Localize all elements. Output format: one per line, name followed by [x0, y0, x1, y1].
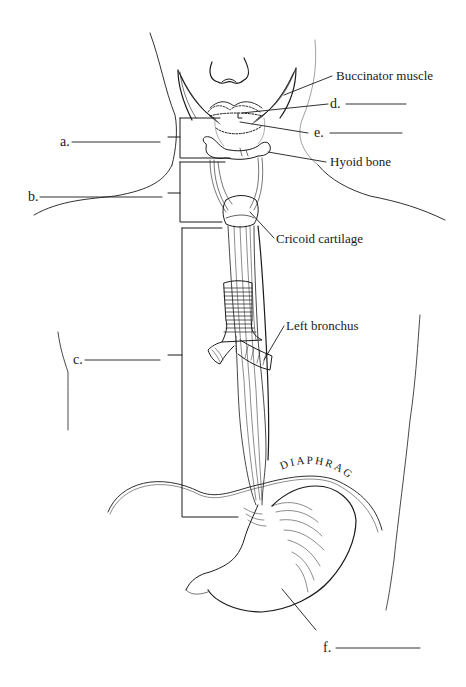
left-torso — [58, 332, 68, 430]
right-bronchus — [208, 342, 234, 364]
label-blank-a: a. — [60, 135, 70, 149]
bracket-b — [168, 162, 225, 222]
anatomy-diagram: DIAPHRAGM Buccinator muscle d. e. Hyoid … — [0, 0, 466, 687]
label-blank-e: e. — [314, 126, 324, 140]
tongue-outline — [216, 126, 262, 134]
right-shoulder — [318, 165, 445, 220]
brackets — [168, 118, 238, 517]
leader-hyoid — [268, 152, 326, 162]
leader-d — [242, 104, 328, 113]
buccinator-left — [178, 70, 220, 124]
upper-lip — [210, 102, 262, 108]
diaphragm — [108, 476, 382, 530]
pharynx — [210, 158, 263, 212]
label-hyoid-bone: Hyoid bone — [330, 155, 391, 168]
leader-bronchus — [264, 326, 284, 360]
stomach — [186, 486, 356, 612]
leader-f — [282, 589, 316, 630]
label-buccinator-muscle: Buccinator muscle — [336, 69, 433, 82]
label-blank-d: d. — [330, 97, 341, 111]
buccinator-right — [252, 68, 296, 124]
label-blank-f: f. — [323, 641, 331, 655]
hyoid-bone — [203, 137, 270, 160]
bracket-a — [168, 118, 230, 158]
esophagus — [228, 226, 269, 505]
label-blank-c: c. — [73, 353, 83, 367]
right-torso — [386, 315, 420, 610]
label-left-bronchus: Left bronchus — [286, 319, 359, 332]
label-cricoid-cartilage: Cricoid cartilage — [276, 232, 363, 245]
left-face-outline — [150, 33, 176, 165]
cricoid-cartilage — [223, 196, 258, 228]
label-blank-b: b. — [28, 190, 39, 204]
diagram-drawing: DIAPHRAGM — [0, 0, 466, 687]
right-face-outline — [300, 40, 318, 165]
nose — [210, 58, 249, 83]
bracket-c — [168, 228, 238, 517]
leader-lines — [40, 76, 332, 630]
leader-cricoid — [250, 212, 274, 238]
left-shoulder — [34, 165, 172, 215]
